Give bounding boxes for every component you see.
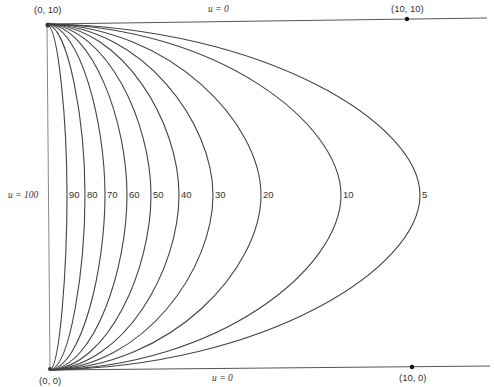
curve-label-60: 60 xyxy=(129,190,140,200)
curve-label-80: 80 xyxy=(87,190,98,200)
label-bottom-left-corner: (0, 0) xyxy=(39,376,61,386)
label-top-left-corner: (0, 10) xyxy=(34,5,61,15)
curve-label-30: 30 xyxy=(215,190,226,200)
curve-label-40: 40 xyxy=(181,190,192,200)
curve-label-10: 10 xyxy=(343,190,354,200)
left-boundary-line xyxy=(47,24,50,370)
label-top-boundary: u = 0 xyxy=(208,5,229,15)
curve-label-70: 70 xyxy=(107,190,118,200)
label-top-right-corner: (10, 10) xyxy=(391,4,424,14)
point-10-10-dot xyxy=(405,17,409,21)
curve-label-50: 50 xyxy=(153,190,164,200)
equipotential-curve-5 xyxy=(47,24,420,370)
equipotential-curves xyxy=(47,24,420,370)
curve-label-5: 5 xyxy=(422,190,427,200)
label-bottom-boundary: u = 0 xyxy=(212,374,233,384)
bottom-boundary-line xyxy=(50,366,490,370)
point-10-0-dot xyxy=(410,365,414,369)
label-left-boundary: u = 100 xyxy=(8,191,38,201)
label-bottom-right-corner: (10, 0) xyxy=(399,373,426,383)
curve-label-90: 90 xyxy=(69,190,80,200)
top-boundary-line xyxy=(47,18,487,24)
curve-label-20: 20 xyxy=(263,190,274,200)
